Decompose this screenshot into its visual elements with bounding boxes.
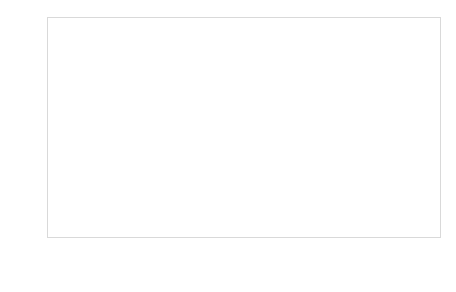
y-axis [0, 17, 43, 238]
plot-wrap [47, 17, 441, 238]
bars-layer [48, 18, 440, 237]
stacked-bar-chart [0, 0, 456, 292]
x-axis [47, 239, 441, 269]
plot-area [47, 17, 441, 238]
